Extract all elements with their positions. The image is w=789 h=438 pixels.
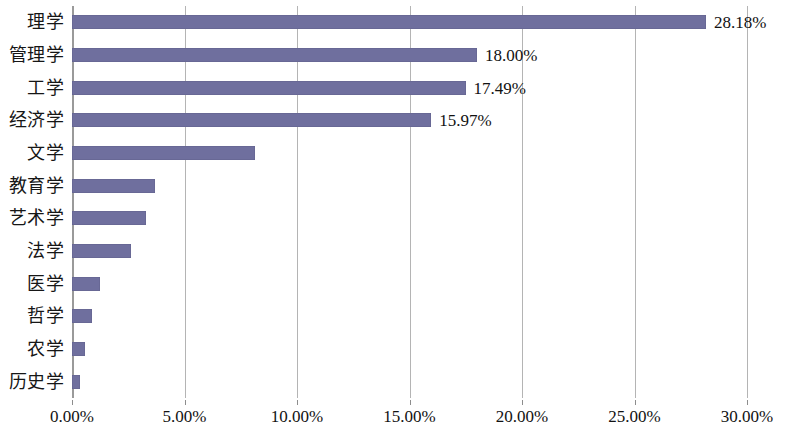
category-label-管理学: 管理学 bbox=[0, 39, 68, 72]
category-label-历史学: 历史学 bbox=[0, 365, 68, 398]
bar bbox=[72, 15, 706, 29]
bar bbox=[72, 244, 131, 258]
category-label-法学: 法学 bbox=[0, 235, 68, 268]
bar-row bbox=[72, 267, 747, 300]
x-tick-label: 25.00% bbox=[608, 408, 660, 425]
gridline bbox=[747, 6, 748, 398]
category-label-text: 工学 bbox=[27, 79, 64, 97]
category-label-哲学: 哲学 bbox=[0, 300, 68, 333]
category-label-text: 理学 bbox=[27, 13, 64, 31]
bar bbox=[72, 277, 100, 291]
bar-row bbox=[72, 202, 747, 235]
x-tick-label: 15.00% bbox=[383, 408, 435, 425]
bar-row bbox=[72, 235, 747, 268]
category-label-文学: 文学 bbox=[0, 137, 68, 170]
bar-row bbox=[72, 137, 747, 170]
bar bbox=[72, 342, 85, 356]
bar bbox=[72, 211, 146, 225]
bar-row: 28.18% bbox=[72, 6, 747, 39]
plot-area: 15.97%17.49%18.00%28.18% bbox=[72, 6, 747, 398]
bar-value-label: 28.18% bbox=[714, 14, 766, 31]
bar-row: 15.97% bbox=[72, 104, 747, 137]
x-tick-label: 30.00% bbox=[721, 408, 773, 425]
category-label-text: 经济学 bbox=[9, 111, 65, 129]
bar-row bbox=[72, 169, 747, 202]
bar-value-label: 15.97% bbox=[439, 112, 491, 129]
x-tick-mark bbox=[635, 400, 636, 405]
category-label-理学: 理学 bbox=[0, 6, 68, 39]
value-axis: 0.00%5.00%10.00%15.00%20.00%25.00%30.00% bbox=[72, 400, 747, 436]
category-label-工学: 工学 bbox=[0, 71, 68, 104]
x-tick-mark bbox=[185, 400, 186, 405]
bar-value-label: 17.49% bbox=[474, 79, 526, 96]
category-label-text: 教育学 bbox=[9, 177, 65, 195]
x-tick-label: 10.00% bbox=[271, 408, 323, 425]
bar-row: 18.00% bbox=[72, 39, 747, 72]
category-label-text: 历史学 bbox=[9, 373, 65, 391]
x-tick-mark bbox=[522, 400, 523, 405]
category-label-text: 文学 bbox=[27, 144, 64, 162]
bar bbox=[72, 309, 92, 323]
category-label-艺术学: 艺术学 bbox=[0, 202, 68, 235]
category-label-text: 管理学 bbox=[9, 46, 65, 64]
bar bbox=[72, 113, 431, 127]
category-label-经济学: 经济学 bbox=[0, 104, 68, 137]
x-tick-mark bbox=[297, 400, 298, 405]
category-label-text: 法学 bbox=[27, 242, 64, 260]
bar-value-label: 18.00% bbox=[485, 46, 537, 63]
bar-chart: 历史学农学哲学医学法学艺术学教育学文学经济学工学管理学理学 15.97%17.4… bbox=[0, 0, 789, 438]
category-label-text: 医学 bbox=[27, 275, 64, 293]
bar bbox=[72, 375, 80, 389]
bar bbox=[72, 48, 477, 62]
x-tick-label: 5.00% bbox=[163, 408, 207, 425]
category-axis: 历史学农学哲学医学法学艺术学教育学文学经济学工学管理学理学 bbox=[0, 6, 68, 398]
x-tick-mark bbox=[410, 400, 411, 405]
bar-row: 17.49% bbox=[72, 71, 747, 104]
bar-row bbox=[72, 300, 747, 333]
category-label-text: 农学 bbox=[27, 340, 64, 358]
x-tick-mark bbox=[72, 400, 73, 405]
bar bbox=[72, 81, 466, 95]
bar-row bbox=[72, 365, 747, 398]
category-label-教育学: 教育学 bbox=[0, 169, 68, 202]
category-label-text: 艺术学 bbox=[9, 209, 65, 227]
x-tick-mark bbox=[747, 400, 748, 405]
category-label-医学: 医学 bbox=[0, 267, 68, 300]
category-label-text: 哲学 bbox=[27, 307, 64, 325]
x-tick-label: 20.00% bbox=[496, 408, 548, 425]
bar bbox=[72, 179, 155, 193]
x-tick-label: 0.00% bbox=[50, 408, 94, 425]
category-label-农学: 农学 bbox=[0, 333, 68, 366]
bar-row bbox=[72, 333, 747, 366]
bar bbox=[72, 146, 255, 160]
